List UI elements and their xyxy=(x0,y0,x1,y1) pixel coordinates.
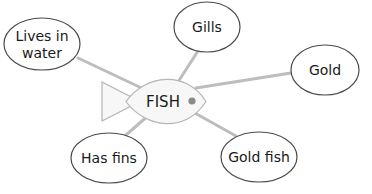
node-has-fins: Has fins xyxy=(71,133,147,183)
node-label: Gold fish xyxy=(228,149,290,165)
node-gills: Gills xyxy=(174,2,240,52)
mind-map-diagram: FISH Lives in water Gills Gold Has fins … xyxy=(0,0,372,194)
link-gold xyxy=(196,73,291,88)
node-label-line-1: Lives in xyxy=(15,28,68,44)
node-gold: Gold xyxy=(291,45,359,95)
link-gold-fish xyxy=(193,112,236,136)
node-lives-in-water: Lives in water xyxy=(4,18,80,70)
node-gold-fish: Gold fish xyxy=(221,132,297,182)
center-label: FISH xyxy=(146,93,180,111)
node-label: Has fins xyxy=(81,150,137,166)
link-lives-in-water xyxy=(78,58,150,92)
link-gills xyxy=(178,51,198,82)
node-label: Gold xyxy=(309,62,341,78)
node-label-line-2: water xyxy=(22,45,62,61)
node-label: Gills xyxy=(192,19,222,35)
fish-eye-icon xyxy=(188,97,195,104)
center-fish: FISH xyxy=(102,79,206,123)
